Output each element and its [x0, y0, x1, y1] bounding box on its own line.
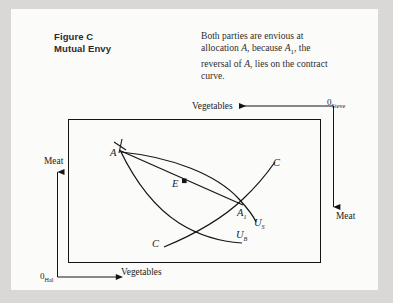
axis-label-vegetables-bottom: Vegetables [121, 267, 162, 277]
edgeworth-box-rect [69, 120, 321, 263]
axis-label-meat-left: Meat [44, 156, 63, 166]
indifference-curve-label-hal: UB [236, 229, 247, 242]
axis-label-meat-right: Meat [336, 211, 355, 221]
diagram-svg [11, 9, 378, 290]
point-label-E: E [172, 178, 178, 189]
contract-curve-label-bottom: C [152, 238, 159, 249]
allocation-chord-A-to-A1 [121, 151, 243, 205]
point-E-marker [182, 179, 187, 184]
contract-curve [164, 162, 275, 247]
origin-label-hal: 0Hal [40, 271, 53, 283]
point-label-A: A [110, 147, 116, 158]
contract-curve-label-top: C [273, 157, 280, 168]
figure-card: Figure C Mutual Envy Both parties are en… [11, 9, 378, 290]
page-background: Figure C Mutual Envy Both parties are en… [0, 0, 393, 303]
origin-label-steve: 0Steve [327, 97, 345, 109]
edgeworth-box-diagram: 0Hal 0Steve Vegetables Vegetables Meat M… [11, 9, 378, 290]
axis-label-vegetables-top: Vegetables [192, 101, 233, 111]
point-label-A1: A1 [237, 207, 247, 220]
indifference-curve-label-steve: US [254, 217, 265, 230]
